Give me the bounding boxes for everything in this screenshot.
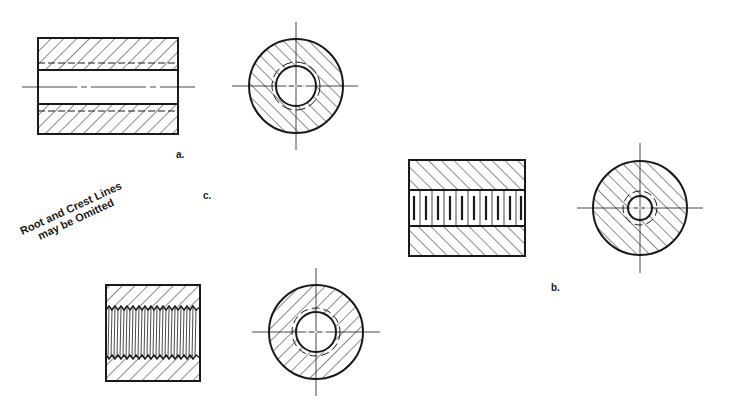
label-c: c. [203,190,211,201]
label-a: a. [176,149,184,160]
view-a-section [22,38,195,134]
view-b-section [409,160,525,256]
view-a-end [232,22,358,150]
view-c-section [106,285,200,381]
view-c-end [252,268,380,396]
view-b-end [577,143,703,273]
label-b: b. [551,282,560,293]
